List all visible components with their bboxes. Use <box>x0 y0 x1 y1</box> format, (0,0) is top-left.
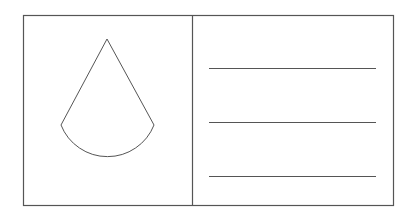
water-drop-icon <box>61 39 154 157</box>
right-panel <box>209 69 376 177</box>
diagram-canvas <box>0 0 409 218</box>
left-panel <box>61 39 154 157</box>
